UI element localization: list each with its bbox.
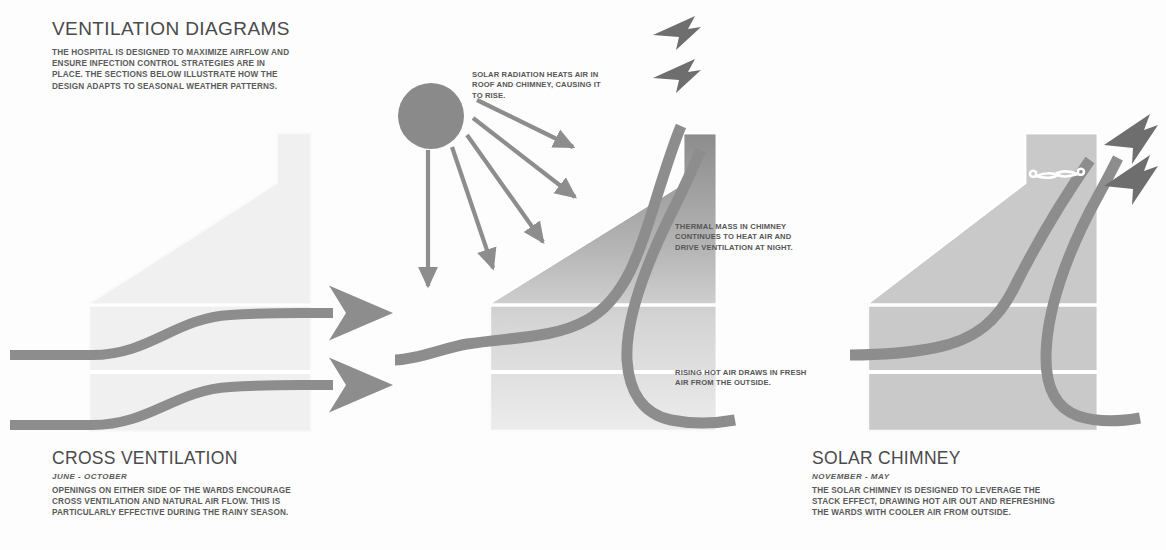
exhaust-fans-diagram — [850, 0, 1166, 450]
caption-title: CROSS VENTILATION — [52, 448, 382, 469]
panel-exhaust-fans: EXHAUST FANS APRIL - JULY / NOVEMBER - D… — [850, 0, 1166, 550]
annotation-line: THERMAL MASS IN CHIMNEY — [675, 222, 865, 232]
annotation-line: CONTINUES TO HEAT AIR AND — [675, 232, 865, 242]
ventilation-diagrams-page: VENTILATION DIAGRAMS THE HOSPITAL IS DES… — [0, 0, 1166, 550]
annotation-rising-air: RISING HOT AIR DRAWS IN FRESH AIR FROM T… — [675, 368, 865, 389]
caption-body-line: CROSS VENTILATION AND NATURAL AIR FLOW. … — [52, 496, 382, 507]
caption-body-line: PARTICULARLY EFFECTIVE DURING THE RAINY … — [52, 507, 382, 518]
annotation-line: RISING HOT AIR DRAWS IN FRESH — [675, 368, 865, 378]
caption-body-line: OPENINGS ON EITHER SIDE OF THE WARDS ENC… — [52, 485, 382, 496]
caption-season: JUNE - OCTOBER — [52, 472, 382, 481]
cross-ventilation-diagram — [0, 0, 395, 450]
annotation-line: AIR FROM THE OUTSIDE. — [675, 378, 865, 388]
annotation-line: DRIVE VENTILATION AT NIGHT. — [675, 243, 865, 253]
annotation-line: ROOF AND CHIMNEY, CAUSING IT — [472, 80, 672, 90]
caption-cross-ventilation: CROSS VENTILATION JUNE - OCTOBER OPENING… — [52, 448, 382, 519]
caption-body: OPENINGS ON EITHER SIDE OF THE WARDS ENC… — [52, 485, 382, 519]
sun-icon — [398, 83, 464, 149]
annotation-thermal-mass: THERMAL MASS IN CHIMNEY CONTINUES TO HEA… — [675, 222, 865, 253]
annotation-line: SOLAR RADIATION HEATS AIR IN — [472, 70, 672, 80]
panel-cross-ventilation: CROSS VENTILATION JUNE - OCTOBER OPENING… — [0, 0, 395, 550]
annotation-line: TO RISE. — [472, 91, 672, 101]
annotation-solar-radiation: SOLAR RADIATION HEATS AIR IN ROOF AND CH… — [472, 70, 672, 101]
